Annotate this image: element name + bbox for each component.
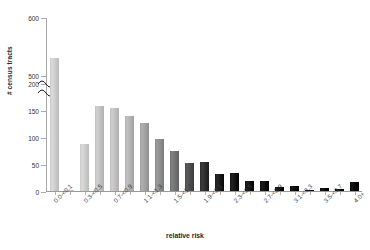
y-tick-label: 500	[28, 73, 39, 80]
bar-slot	[152, 18, 167, 191]
x-tick	[340, 192, 341, 195]
y-tick	[41, 76, 46, 77]
y-tick-label: 600	[28, 15, 39, 22]
bar-slot	[47, 18, 62, 191]
y-tick-label: 150	[28, 108, 39, 115]
x-tick	[130, 192, 131, 195]
bar-slot	[257, 18, 272, 191]
bar	[80, 144, 89, 191]
bar	[170, 151, 179, 191]
x-tick	[100, 192, 101, 195]
bar	[290, 186, 299, 191]
bar-slot	[167, 18, 182, 191]
y-tick-label: 100	[28, 135, 39, 142]
y-tick-label: 0	[35, 189, 39, 196]
bar-slot	[317, 18, 332, 191]
bar	[110, 108, 119, 191]
bar	[50, 58, 59, 191]
y-tick-label: 200	[28, 81, 39, 88]
x-tick	[160, 192, 161, 195]
x-tick	[310, 192, 311, 195]
y-tick	[41, 192, 46, 193]
plot-area: 050100150200500600	[46, 18, 362, 192]
bar	[200, 162, 209, 191]
bar-slot	[107, 18, 122, 191]
bar	[350, 182, 359, 191]
bar-slot	[62, 18, 77, 191]
bar-slot	[287, 18, 302, 191]
x-axis-title: relative risk	[0, 232, 370, 239]
bar	[140, 123, 149, 192]
x-tick	[190, 192, 191, 195]
bar-slot	[242, 18, 257, 191]
relative-risk-histogram: # census tracts 050100150200500600 0.0-<…	[0, 0, 370, 250]
bar-slot	[197, 18, 212, 191]
y-tick	[41, 18, 46, 19]
bar-slot	[302, 18, 317, 191]
y-axis-title: # census tracts	[6, 46, 13, 95]
bar	[125, 116, 134, 191]
bar-slot	[272, 18, 287, 191]
bar-series	[47, 18, 362, 191]
bar-slot	[77, 18, 92, 191]
y-tick	[41, 165, 46, 166]
y-tick	[41, 111, 46, 112]
bar-slot	[212, 18, 227, 191]
y-tick-label: 50	[32, 162, 39, 169]
bar	[320, 188, 329, 191]
bar-slot	[227, 18, 242, 191]
bar	[260, 181, 269, 191]
y-tick	[41, 138, 46, 139]
bar	[230, 173, 239, 191]
bar-slot	[332, 18, 347, 191]
x-tick	[220, 192, 221, 195]
bar-slot	[122, 18, 137, 191]
x-tick	[280, 192, 281, 195]
bar-slot	[92, 18, 107, 191]
bar-slot	[137, 18, 152, 191]
x-tick	[70, 192, 71, 195]
bar-slot	[182, 18, 197, 191]
bar	[95, 106, 104, 191]
y-tick	[41, 84, 46, 85]
x-tick	[250, 192, 251, 195]
bar-slot	[347, 18, 362, 191]
